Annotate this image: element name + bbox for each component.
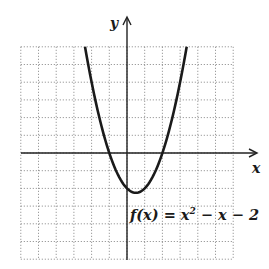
function-label-lhs: f(x) = x [129,206,190,223]
graph: x y f(x) = x2 − x − 2 [0,0,269,269]
function-label-rhs: − x − 2 [196,206,259,223]
y-axis: y [109,15,131,260]
x-axis: x [21,149,261,176]
y-axis-label: y [109,15,119,31]
function-label-exponent: 2 [189,206,196,216]
function-label: f(x) = x2 − x − 2 [129,206,259,223]
x-axis-label: x [251,160,261,176]
